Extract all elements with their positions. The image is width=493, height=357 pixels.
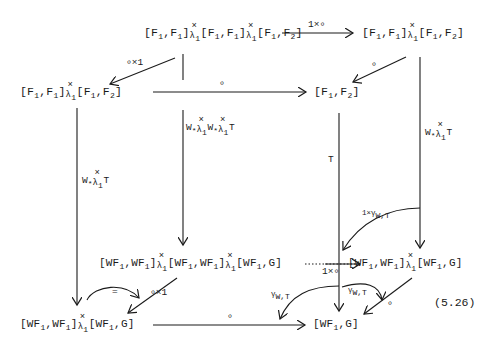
label-curve-left-equals: = — [112, 287, 118, 297]
node-bottom-back-right: [WF1,WF1]×λ1[WF1,G] — [348, 258, 462, 269]
commutative-diagram-arrows — [0, 0, 493, 357]
label-bottom-back-right-diag: ∘ — [387, 299, 393, 309]
label-vert-back-left: W*×λ1W*×λ1T — [186, 122, 235, 132]
node-top-front-right: [F1,F2] — [314, 86, 360, 98]
node-top-front-left: [F1,F1]×λ1[F1,F2] — [20, 86, 122, 98]
node-bottom-front-right: [WF1,G] — [313, 319, 359, 330]
node-bottom-back-left: [WF1,WF1]×λ1[WF1,WF1]×λ1[WF1,G] — [99, 258, 282, 269]
node-top-back-left: [F1,F1]×λ1[F1,F1]×λ1[F1,F2] — [144, 27, 303, 39]
label-top-front-horizontal: ∘ — [219, 79, 225, 89]
arrow-top-back-right-diag — [353, 57, 406, 82]
equation-number: (5.26) — [434, 296, 475, 309]
label-vert-back-right: W*×λ1T — [425, 127, 452, 137]
label-bottom-front-horizontal: ∘ — [227, 312, 233, 322]
node-bottom-front-left: [WF1,WF1]×λ1[WF1,G] — [20, 319, 134, 330]
label-bottom-back-horizontal: 1×∘ — [322, 267, 339, 277]
node-top-back-right: [F1,F1]×λ1[F1,F2] — [362, 27, 464, 39]
label-top-back-horizontal: 1×∘ — [308, 20, 325, 30]
label-top-back-right-diag: ∘ — [371, 60, 377, 70]
label-bottom-back-left-diag: ∘×1 — [150, 288, 167, 298]
label-curve-bottom-left: γW,T — [271, 291, 290, 299]
label-vert-front-right: T — [328, 155, 334, 165]
label-top-back-left-diag: ∘×1 — [126, 58, 143, 68]
label-curve-bottom-right: γW,T — [348, 287, 367, 295]
label-curve-right-upper: 1×γW,T — [362, 210, 390, 218]
label-vert-front-left: W*×λ1T — [82, 175, 109, 185]
